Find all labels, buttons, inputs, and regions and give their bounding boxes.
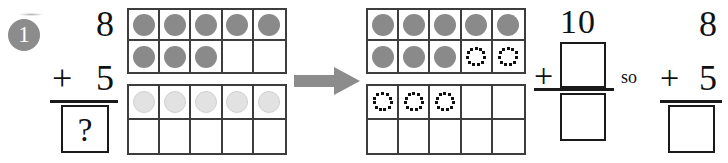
ten-frame-cell[interactable] <box>129 86 160 120</box>
ten-frame-cell[interactable] <box>368 10 399 41</box>
ten-frame-cell[interactable] <box>493 41 524 72</box>
ten-frame-cell[interactable] <box>254 41 285 72</box>
ten-frame-cell[interactable] <box>191 10 222 41</box>
outline-dot <box>443 92 446 95</box>
counter-dark <box>372 14 394 36</box>
left-equation: 8 + 5 ? <box>48 6 120 156</box>
scan-artifact <box>18 13 44 16</box>
ten-frame-before-bottom <box>127 84 287 155</box>
ten-frame-cell[interactable] <box>160 41 191 72</box>
ten-frame-cell[interactable] <box>223 120 254 154</box>
counter-dotted-outline <box>497 46 519 68</box>
ten-frame-cell[interactable] <box>462 41 493 72</box>
ten-frame-cell[interactable] <box>160 10 191 41</box>
middle-addend-top: 10 <box>560 4 596 40</box>
counter-dark <box>164 46 186 68</box>
ten-frame-cell[interactable] <box>462 86 493 120</box>
ten-frame-cell[interactable] <box>399 86 430 120</box>
outline-dot <box>467 51 470 54</box>
counter-dark <box>497 14 519 36</box>
right-addend-top: 8 <box>699 6 717 42</box>
outline-dot <box>421 101 424 104</box>
counter-dotted-outline <box>372 91 394 113</box>
right-addend-bottom: 5 <box>699 58 717 98</box>
left-answer-box[interactable]: ? <box>61 105 109 153</box>
ten-frame-after-top <box>366 8 526 74</box>
ten-frame-cell[interactable] <box>368 41 399 72</box>
ten-frame-cell[interactable] <box>493 86 524 120</box>
counter-light <box>195 91 217 113</box>
ten-frame-cell[interactable] <box>160 120 191 154</box>
right-equation: 8 + 5 <box>660 6 724 158</box>
outline-dot <box>511 48 514 51</box>
ten-frame-cell[interactable] <box>462 10 493 41</box>
ten-frame-cell[interactable] <box>254 86 285 120</box>
counter-light <box>226 91 248 113</box>
outline-dot <box>410 108 413 111</box>
plus-icon: + <box>52 58 72 98</box>
ten-frame-cell[interactable] <box>399 10 430 41</box>
counter-light <box>133 91 155 113</box>
outline-dot <box>408 93 411 96</box>
counter-dotted-outline <box>403 91 425 113</box>
ten-frame-cell[interactable] <box>430 86 461 120</box>
outline-dot <box>439 93 442 96</box>
outline-dot <box>500 61 503 64</box>
ten-frame-cell[interactable] <box>191 86 222 120</box>
ten-frame-before-top <box>127 8 287 74</box>
outline-dot <box>515 51 518 54</box>
ten-frame-cell[interactable] <box>223 10 254 41</box>
ten-frame-cell[interactable] <box>129 41 160 72</box>
ten-frame-cell[interactable] <box>493 120 524 154</box>
ten-frame-cell[interactable] <box>462 120 493 154</box>
ten-frame-cell[interactable] <box>493 10 524 41</box>
outline-dot <box>405 97 408 100</box>
outline-dot <box>509 63 512 66</box>
outline-dot <box>472 63 475 66</box>
counter-dotted-outline <box>465 46 487 68</box>
outline-dot <box>498 56 501 59</box>
outline-dot <box>383 108 386 111</box>
outline-dot <box>513 61 516 64</box>
outline-dot <box>446 108 449 111</box>
ten-frame-cell[interactable] <box>430 10 461 41</box>
outline-dot <box>451 97 454 100</box>
ten-frame-cell[interactable] <box>399 120 430 154</box>
outline-dot <box>441 108 444 111</box>
outline-dot <box>477 63 480 66</box>
outline-dot <box>435 101 438 104</box>
ten-frame-cell[interactable] <box>399 41 430 72</box>
ten-frame-cell[interactable] <box>191 120 222 154</box>
ten-frame-cell[interactable] <box>191 41 222 72</box>
ten-frame-cell[interactable] <box>254 120 285 154</box>
outline-dot <box>499 51 502 54</box>
right-answer-box[interactable] <box>668 105 715 153</box>
outline-dot <box>388 106 391 109</box>
outline-dot <box>390 101 393 104</box>
counter-light <box>258 91 280 113</box>
ten-frame-cell[interactable] <box>223 86 254 120</box>
outline-dot <box>420 97 423 100</box>
outline-dot <box>381 92 384 95</box>
ten-frame-cell[interactable] <box>223 41 254 72</box>
ten-frame-cell[interactable] <box>129 120 160 154</box>
ten-frame-cell[interactable] <box>160 86 191 120</box>
ten-frame-cell[interactable] <box>368 120 399 154</box>
ten-frame-cell[interactable] <box>430 120 461 154</box>
outline-dot <box>412 92 415 95</box>
ten-frame-cell[interactable] <box>430 41 461 72</box>
outline-dot <box>507 47 510 50</box>
outline-dot <box>482 51 485 54</box>
ten-frame-cell[interactable] <box>129 10 160 41</box>
outline-dot <box>466 56 469 59</box>
counter-dark <box>133 46 155 68</box>
ten-frame-cell[interactable] <box>254 10 285 41</box>
ten-frame-cell[interactable] <box>368 86 399 120</box>
middle-equation: 10 + <box>534 4 616 159</box>
left-sum-rule <box>50 100 118 103</box>
middle-addend-box[interactable] <box>560 42 606 88</box>
middle-answer-box[interactable] <box>560 93 606 141</box>
counter-dark <box>164 14 186 36</box>
left-addend-top: 8 <box>96 6 114 42</box>
outline-dot <box>386 93 389 96</box>
